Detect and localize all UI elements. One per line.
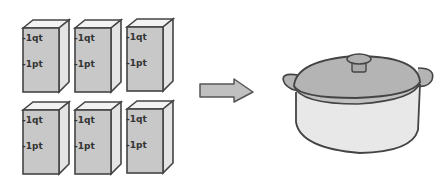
pint-mark: -1pt — [126, 140, 147, 150]
pint-mark: -1pt — [126, 58, 147, 68]
quart-mark: -1qt — [22, 33, 43, 43]
carton-5: -1qt -1pt — [74, 102, 121, 174]
carton-1: -1qt -1pt — [22, 20, 69, 92]
pint-mark: -1pt — [22, 59, 43, 69]
carton-3: -1qt -1pt — [126, 19, 173, 91]
carton-4: -1qt -1pt — [22, 102, 69, 174]
right-arrow-icon — [200, 79, 253, 102]
carton-6: -1qt -1pt — [126, 101, 173, 173]
quart-mark: -1qt — [22, 115, 43, 125]
carton-2: -1qt -1pt — [74, 20, 121, 92]
pint-mark: -1pt — [22, 141, 43, 151]
carton-grid: -1qt -1pt -1qt -1pt -1qt -1pt -1qt -1pt — [22, 19, 173, 174]
quart-mark: -1qt — [126, 32, 147, 42]
pot-icon — [283, 54, 433, 153]
quart-mark: -1qt — [126, 114, 147, 124]
pint-mark: -1pt — [74, 141, 95, 151]
cartons-to-pot-diagram: -1qt -1pt -1qt -1pt -1qt -1pt -1qt -1pt — [0, 0, 448, 180]
quart-mark: -1qt — [74, 115, 95, 125]
quart-mark: -1qt — [74, 33, 95, 43]
pint-mark: -1pt — [74, 59, 95, 69]
